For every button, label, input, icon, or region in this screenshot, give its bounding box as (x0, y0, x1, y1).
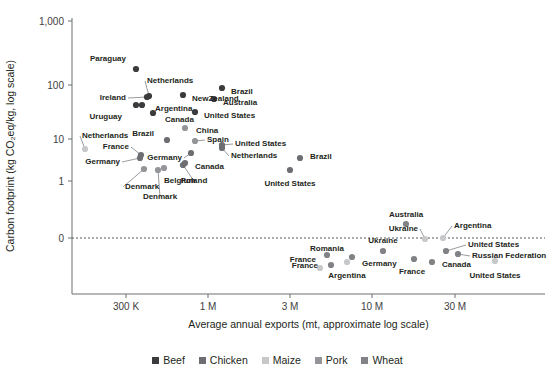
data-point-label: Romania (310, 244, 344, 253)
data-point-label: Australia (223, 98, 258, 107)
legend-swatch-icon (361, 357, 368, 364)
data-point[interactable] (139, 102, 145, 108)
data-point-label: Germany (147, 153, 182, 162)
data-point-label: Germany (85, 157, 120, 166)
data-point[interactable] (188, 150, 194, 156)
data-point-label: Argentina (454, 221, 492, 230)
legend-item-chicken[interactable]: Chicken (199, 354, 248, 366)
data-point[interactable] (180, 92, 186, 98)
data-point[interactable] (443, 248, 449, 254)
x-tick-label: 1 M (200, 301, 217, 312)
data-point-label: Canada (442, 260, 471, 269)
data-points-group (82, 66, 498, 271)
chart-legend: BeefChickenMaizePorkWheat (0, 354, 555, 366)
data-point-label: Paraguay (90, 54, 127, 63)
data-point[interactable] (411, 256, 417, 262)
data-point-label: United States (468, 240, 520, 249)
data-point[interactable] (349, 254, 355, 260)
legend-label: Beef (163, 354, 185, 366)
data-point-label: Belgium (164, 176, 196, 185)
scatter-chart-figure: 1,0001001010300 K1 M3 M10 M30 M Paraguay… (0, 0, 555, 372)
data-point-label: United States (204, 111, 256, 120)
legend-label: Chicken (210, 354, 248, 366)
y-tick-label: 1 (58, 176, 64, 187)
legend-label: Maize (273, 354, 301, 366)
data-point-label: Denmark (125, 182, 160, 191)
y-axis-title: Carbon footprint (kg CO₂eq/kg, log scale… (4, 60, 16, 252)
data-point-label: Canada (195, 162, 224, 171)
legend-item-pork[interactable]: Pork (315, 354, 348, 366)
data-point-label: Uruguay (90, 112, 123, 121)
data-point[interactable] (133, 66, 139, 72)
data-point[interactable] (422, 236, 428, 242)
data-point[interactable] (429, 259, 435, 265)
data-point-label: Netherlands (82, 131, 129, 140)
data-point-label: Ukraine (389, 224, 419, 233)
x-tick-label: 3 M (282, 301, 299, 312)
data-point[interactable] (328, 262, 334, 268)
data-point[interactable] (455, 251, 461, 257)
legend-swatch-icon (199, 357, 206, 364)
data-point-label: Canada (165, 115, 194, 124)
data-point[interactable] (144, 94, 150, 100)
data-point[interactable] (82, 146, 88, 152)
data-point[interactable] (155, 167, 161, 173)
data-point[interactable] (164, 137, 170, 143)
data-point-labels-group: ParaguayNetherlandsNewZealandIrelandArge… (82, 54, 546, 280)
y-tick-label: 1,000 (39, 16, 64, 27)
data-point-label: Germany (362, 259, 397, 268)
y-tick-label: 0 (58, 233, 64, 244)
legend-item-wheat[interactable]: Wheat (361, 354, 402, 366)
x-axis-title: Average annual exports (mt, approximate … (188, 318, 428, 330)
data-point-label: Brazil (231, 87, 253, 96)
data-point[interactable] (161, 165, 167, 171)
data-point[interactable] (182, 125, 188, 131)
y-tick-label: 100 (47, 80, 64, 91)
y-tick-label: 10 (53, 134, 65, 145)
legend-label: Pork (326, 354, 348, 366)
x-tick-label: 30 M (444, 301, 466, 312)
data-point-label: Brazil (132, 129, 154, 138)
data-point-label: Australia (389, 210, 424, 219)
data-point[interactable] (380, 248, 386, 254)
legend-swatch-icon (152, 357, 159, 364)
data-point-label: Netherlands (147, 76, 194, 85)
data-point-label: Denmark (143, 192, 178, 201)
plot-area: 1,0001001010300 K1 M3 M10 M30 M Paraguay… (0, 0, 555, 372)
legend-item-beef[interactable]: Beef (152, 354, 185, 366)
data-point[interactable] (297, 155, 303, 161)
label-leader-line (446, 245, 466, 251)
x-tick-label: 10 M (361, 301, 383, 312)
data-point-label: France (399, 267, 426, 276)
data-point-label: Argentina (155, 104, 193, 113)
data-point-label: Ireland (100, 93, 126, 102)
data-point[interactable] (287, 167, 293, 173)
data-point-label: United States (235, 139, 287, 148)
legend-label: Wheat (372, 354, 402, 366)
data-point-label: Russian Federation (472, 251, 546, 260)
data-point-label: Ukraine (368, 236, 398, 245)
data-point[interactable] (133, 102, 139, 108)
data-point[interactable] (440, 235, 446, 241)
data-point-label: Brazil (310, 152, 332, 161)
data-point[interactable] (192, 138, 198, 144)
data-point[interactable] (219, 85, 225, 91)
legend-swatch-icon (315, 357, 322, 364)
x-tick-label: 300 K (113, 301, 139, 312)
data-point-label: United States (469, 271, 521, 280)
legend-swatch-icon (262, 357, 269, 364)
data-point[interactable] (182, 160, 188, 166)
data-point-label: France (103, 142, 130, 151)
data-point[interactable] (141, 166, 147, 172)
legend-item-maize[interactable]: Maize (262, 354, 301, 366)
data-point-label: China (196, 126, 219, 135)
data-point-label: United States (264, 179, 316, 188)
data-point[interactable] (137, 155, 143, 161)
data-point-label: France (292, 261, 319, 270)
data-point-label: Spain (207, 135, 229, 144)
data-point-label: Argentina (328, 271, 366, 280)
data-point[interactable] (344, 259, 350, 265)
data-point-label: Netherlands (231, 151, 278, 160)
